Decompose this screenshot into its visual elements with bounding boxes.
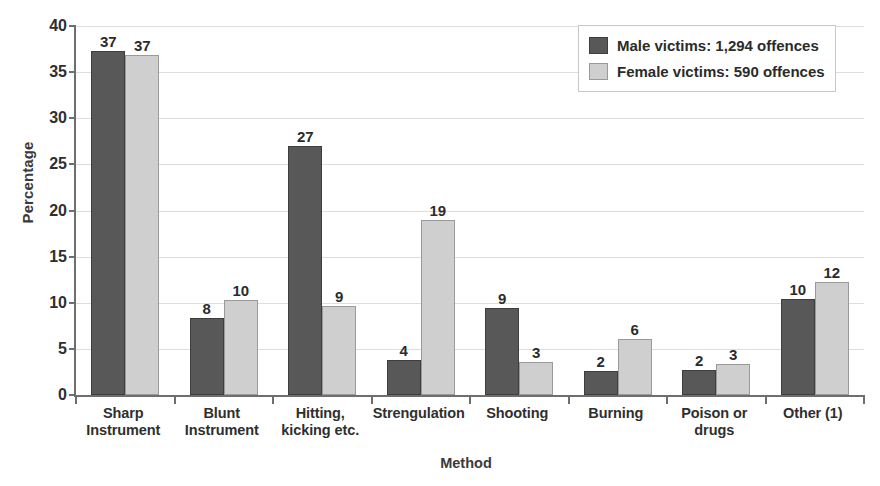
- bar-value-label: 37: [100, 33, 117, 50]
- bar-value-label: 9: [498, 290, 506, 307]
- x-axis-tick-mark: [863, 395, 865, 404]
- bar-value-label: 19: [429, 202, 446, 219]
- x-axis-category-label: BluntInstrument: [173, 405, 272, 439]
- bar-value-label: 3: [729, 346, 737, 363]
- bar-female-6: 3: [716, 364, 750, 395]
- x-axis-tick-mark: [371, 395, 373, 404]
- legend-item-male[interactable]: Male victims: 1,294 offences: [589, 32, 825, 58]
- x-axis-tick-mark: [75, 395, 77, 404]
- y-axis-tick-label: 35: [49, 63, 67, 81]
- bar-male-2: 27: [288, 146, 322, 395]
- bar-value-label: 27: [297, 128, 314, 145]
- category-label-line: Strengulation: [370, 405, 469, 422]
- y-axis-tick-label: 15: [49, 248, 67, 266]
- bar-male-1: 8: [190, 318, 224, 395]
- x-axis-category-label: Burning: [567, 405, 666, 422]
- y-axis-tick-label: 25: [49, 155, 67, 173]
- gridline: [76, 118, 864, 119]
- bar-value-label: 2: [597, 353, 605, 370]
- x-axis-category-label: Shooting: [468, 405, 567, 422]
- bar-male-5: 2: [584, 371, 618, 395]
- x-axis-tick-mark: [765, 395, 767, 404]
- category-label-line: Other (1): [764, 405, 863, 422]
- category-label-line: drugs: [665, 422, 764, 439]
- y-axis-tick-label: 5: [58, 340, 67, 358]
- legend-swatch-male: [589, 37, 608, 54]
- bar-value-label: 10: [789, 281, 806, 298]
- category-label-line: Sharp: [74, 405, 173, 422]
- y-axis-tick-mark: [69, 117, 76, 119]
- y-axis-tick-label: 10: [49, 294, 67, 312]
- y-axis-tick-mark: [69, 256, 76, 258]
- x-axis-category-label: Other (1): [764, 405, 863, 422]
- category-label-line: kicking etc.: [271, 422, 370, 439]
- bar-female-0: 37: [125, 55, 159, 395]
- bar-female-4: 3: [519, 362, 553, 395]
- category-label-line: Burning: [567, 405, 666, 422]
- y-axis-title: Percentage: [19, 93, 36, 273]
- x-axis-tick-mark: [568, 395, 570, 404]
- x-axis-tick-mark: [666, 395, 668, 404]
- y-axis-tick-mark: [69, 302, 76, 304]
- bar-value-label: 12: [823, 264, 840, 281]
- category-label-line: Blunt: [173, 405, 272, 422]
- bar-male-4: 9: [485, 308, 519, 395]
- bar-male-3: 4: [387, 360, 421, 395]
- legend-swatch-female: [589, 63, 608, 80]
- bar-value-label: 37: [134, 37, 151, 54]
- bar-chart: Percentage 05101520253035403737810279419…: [0, 0, 880, 486]
- y-axis-tick-mark: [69, 71, 76, 73]
- y-axis-tick-mark: [69, 348, 76, 350]
- y-axis-tick-mark: [69, 163, 76, 165]
- category-label-line: Instrument: [173, 422, 272, 439]
- y-axis-tick-mark: [69, 25, 76, 27]
- bar-value-label: 8: [203, 300, 211, 317]
- bar-value-label: 6: [631, 321, 639, 338]
- bar-male-0: 37: [91, 51, 125, 395]
- gridline: [76, 211, 864, 212]
- category-label-line: Instrument: [74, 422, 173, 439]
- x-axis-category-label: Hitting,kicking etc.: [271, 405, 370, 439]
- y-axis-tick-label: 20: [49, 202, 67, 220]
- bar-value-label: 4: [400, 342, 408, 359]
- y-axis-tick-label: 30: [49, 109, 67, 127]
- bar-value-label: 3: [532, 344, 540, 361]
- category-label-line: Hitting,: [271, 405, 370, 422]
- bar-female-3: 19: [421, 220, 455, 395]
- bar-value-label: 10: [232, 282, 249, 299]
- y-axis-tick-label: 40: [49, 17, 67, 35]
- y-axis-tick-label: 0: [58, 386, 67, 404]
- legend-label: Male victims: 1,294 offences: [617, 37, 819, 54]
- x-axis-category-label: Poison ordrugs: [665, 405, 764, 439]
- bar-female-7: 12: [815, 282, 849, 395]
- gridline: [76, 303, 864, 304]
- bar-male-6: 2: [682, 370, 716, 395]
- bar-value-label: 9: [335, 288, 343, 305]
- category-label-line: Poison or: [665, 405, 764, 422]
- bar-male-7: 10: [781, 299, 815, 395]
- legend-label: Female victims: 590 offences: [617, 63, 825, 80]
- x-axis-tick-mark: [469, 395, 471, 404]
- x-axis-tick-mark: [272, 395, 274, 404]
- x-axis-category-label: SharpInstrument: [74, 405, 173, 439]
- gridline: [76, 257, 864, 258]
- bar-female-5: 6: [618, 339, 652, 395]
- bar-female-2: 9: [322, 306, 356, 395]
- x-axis-category-label: Strengulation: [370, 405, 469, 422]
- x-axis-tick-mark: [174, 395, 176, 404]
- x-axis-title-wrap: Method: [0, 455, 880, 471]
- gridline: [76, 164, 864, 165]
- chart-legend: Male victims: 1,294 offencesFemale victi…: [578, 25, 836, 92]
- x-axis-title: Method: [440, 455, 492, 471]
- category-label-line: Shooting: [468, 405, 567, 422]
- bar-female-1: 10: [224, 300, 258, 395]
- bar-value-label: 2: [695, 352, 703, 369]
- legend-item-female[interactable]: Female victims: 590 offences: [589, 58, 825, 84]
- y-axis-tick-mark: [69, 210, 76, 212]
